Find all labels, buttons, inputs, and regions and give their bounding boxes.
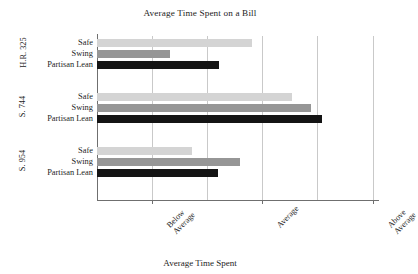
gridline <box>373 36 374 200</box>
category-label: Safe <box>1 146 93 155</box>
bar-HR325-partisan-lean <box>97 61 219 69</box>
category-label: Partisan Lean <box>1 114 93 123</box>
group-label-text: S. 744 <box>18 96 27 117</box>
category-label: Safe <box>1 38 93 47</box>
x-tick-label: Average <box>275 204 301 230</box>
bar-S744-safe <box>97 93 292 101</box>
x-tick-label: BelowAverage <box>165 204 197 236</box>
bar-HR325-safe <box>97 39 252 47</box>
bar-S954-swing <box>97 158 240 166</box>
x-tick-label: AboveAverage <box>385 204 417 236</box>
x-axis-tick <box>373 200 374 204</box>
category-label: Partisan Lean <box>1 168 93 177</box>
x-axis-title: Average Time Spent <box>0 258 400 268</box>
category-label: Safe <box>1 92 93 101</box>
x-axis-spine <box>97 200 379 201</box>
bar-S954-safe <box>97 147 192 155</box>
bar-HR325-swing <box>97 50 170 58</box>
bar-S744-swing <box>97 104 311 112</box>
plot-area <box>97 36 378 200</box>
bar-S954-partisan-lean <box>97 169 218 177</box>
group-label: S. 744 <box>0 102 58 111</box>
group-label-text: S. 954 <box>18 150 27 171</box>
category-label: Partisan Lean <box>1 60 93 69</box>
group-label-text: H.R. 325 <box>18 37 27 67</box>
category-labels: SafeSwingPartisan LeanSafeSwingPartisan … <box>0 36 93 200</box>
x-axis-tick <box>152 200 153 204</box>
chart-title: Average Time Spent on a Bill <box>0 8 400 18</box>
group-label: H.R. 325 <box>0 48 58 57</box>
group-label: S. 954 <box>0 156 58 165</box>
x-axis-tick <box>262 200 263 204</box>
bar-S744-partisan-lean <box>97 115 322 123</box>
